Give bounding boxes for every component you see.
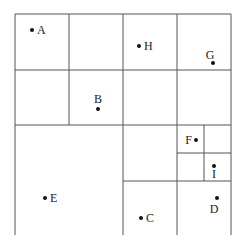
- point-e: E: [43, 191, 57, 205]
- point-dot-icon: [215, 196, 219, 200]
- point-h: H: [137, 39, 153, 53]
- point-dot-icon: [43, 196, 47, 200]
- point-dot-icon: [139, 216, 143, 220]
- point-i: I: [212, 164, 216, 181]
- point-label: H: [144, 39, 153, 53]
- point-label: C: [146, 211, 154, 225]
- point-label: F: [185, 133, 192, 147]
- point-label: E: [50, 191, 57, 205]
- point-dot-icon: [96, 107, 100, 111]
- point-d: D: [210, 196, 219, 216]
- point-dot-icon: [194, 138, 198, 142]
- partition-lines: [15, 14, 231, 235]
- point-f: F: [185, 133, 198, 147]
- point-label: B: [94, 92, 102, 106]
- point-g: G: [206, 48, 215, 65]
- point-label: A: [37, 23, 46, 37]
- point-c: C: [139, 211, 154, 225]
- point-a: A: [30, 23, 46, 37]
- point-dot-icon: [30, 28, 34, 32]
- point-b: B: [94, 92, 102, 111]
- point-dot-icon: [137, 44, 141, 48]
- point-label: I: [212, 167, 216, 181]
- point-label: D: [210, 202, 219, 216]
- point-label: G: [206, 48, 215, 62]
- data-points: ABCDEFGHI: [30, 23, 219, 225]
- quadtree-diagram: ABCDEFGHI: [0, 0, 242, 235]
